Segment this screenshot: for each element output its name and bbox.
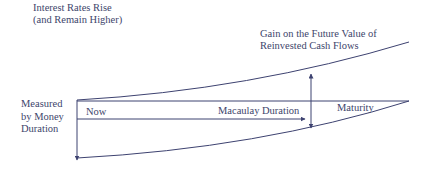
macaulay-duration-label: Macaulay Duration — [218, 105, 299, 117]
title-label: Interest Rates Rise (and Remain Higher) — [33, 2, 122, 26]
maturity-label: Maturity — [337, 102, 374, 114]
measured-by-money-duration-label: Measured by Money Duration — [21, 98, 64, 136]
now-label: Now — [86, 106, 106, 118]
gain-label: Gain on the Future Value of Reinvested C… — [260, 28, 377, 52]
